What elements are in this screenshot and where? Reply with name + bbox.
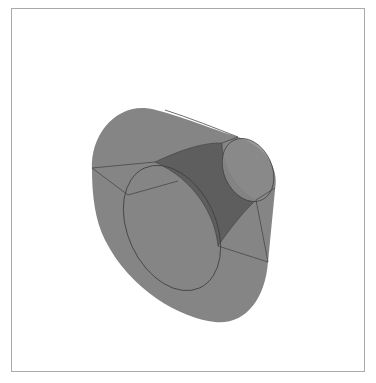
- 3d-scene[interactable]: [0, 0, 376, 383]
